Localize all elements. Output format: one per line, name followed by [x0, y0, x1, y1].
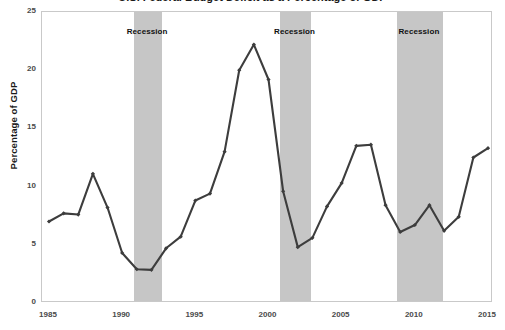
- data-series-line: [42, 12, 492, 302]
- recession-label: Recession: [265, 27, 325, 36]
- y-tick-label: 25: [14, 7, 36, 15]
- y-tick-label: 0: [14, 298, 36, 306]
- chart-title: U.S. Federal Budget Deficit as a Percent…: [0, 0, 505, 3]
- x-tick-label: 1995: [174, 310, 214, 319]
- y-tick-label: 15: [14, 123, 36, 131]
- x-tick-label: 1990: [101, 310, 141, 319]
- y-tick-label: 10: [14, 182, 36, 190]
- x-tick-label: 2005: [321, 310, 361, 319]
- x-tick-label: 2010: [394, 310, 434, 319]
- y-axis-tick-labels: 0510152025: [10, 0, 36, 330]
- data-point-marker: [281, 189, 285, 193]
- plot-area: [41, 11, 492, 302]
- data-point-marker: [369, 143, 373, 147]
- y-tick-label: 5: [14, 240, 36, 248]
- chart-figure: U.S. Federal Budget Deficit as a Percent…: [0, 0, 505, 330]
- x-tick-label: 1985: [28, 310, 68, 319]
- recession-label: Recession: [389, 27, 449, 36]
- y-tick-label: 20: [14, 65, 36, 73]
- recession-label: Recession: [117, 27, 177, 36]
- x-tick-label: 2000: [248, 310, 288, 319]
- x-tick-label: 2015: [467, 310, 505, 319]
